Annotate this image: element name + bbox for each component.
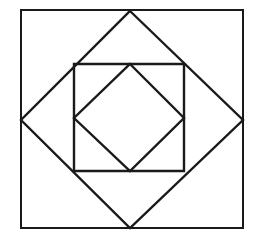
inner-square-shape (74, 64, 184, 171)
outer-square-shape (21, 10, 243, 228)
inner-diamond-shape (74, 64, 184, 171)
outer-diamond-shape (21, 11, 243, 228)
nested-squares-diagram (0, 0, 259, 248)
figure-canvas (0, 0, 259, 248)
